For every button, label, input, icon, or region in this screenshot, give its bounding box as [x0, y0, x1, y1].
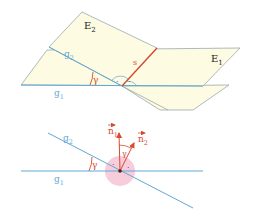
- right-angle-dot-left-bottom: ·: [112, 160, 115, 169]
- right-angle-dot-left: ·: [116, 77, 119, 86]
- label-gamma-normals: γ: [122, 149, 127, 158]
- plane-e2-lower: [122, 85, 229, 110]
- label-n2: n2: [138, 133, 148, 147]
- diagram-canvas: E2 E1 g2 g1 s γ · · g2: [0, 0, 253, 211]
- top-figure: E2 E1 g2 g1 s γ · ·: [21, 12, 240, 110]
- bottom-figure: g2 g1 γ γ n1 n2 · ·: [21, 125, 203, 208]
- label-gamma-top: γ: [93, 75, 98, 85]
- label-n1: n1: [108, 125, 118, 139]
- label-s: s: [133, 58, 137, 67]
- svg-text:n2: n2: [138, 134, 148, 147]
- label-g1-bottom: g1: [54, 174, 64, 187]
- svg-text:n1: n1: [108, 126, 118, 139]
- label-g1-top: g1: [54, 88, 64, 101]
- label-g2-bottom: g2: [63, 133, 73, 146]
- intersection-point: [118, 169, 122, 173]
- angle-arc-normals: [119, 145, 131, 148]
- right-angle-dot-right-bottom: ·: [127, 163, 130, 172]
- label-gamma-bottom: γ: [92, 160, 97, 170]
- right-angle-dot-right: ·: [128, 77, 131, 86]
